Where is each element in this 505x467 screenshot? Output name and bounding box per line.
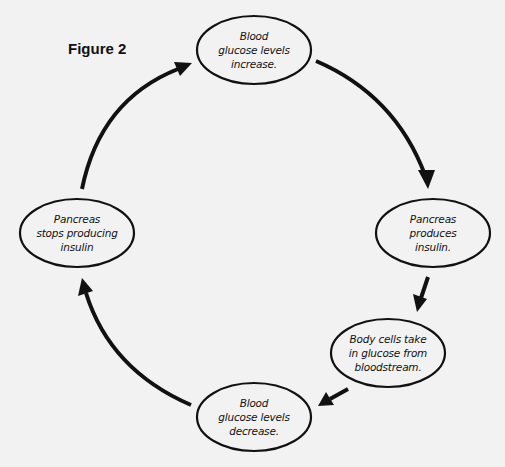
arrow-produces-to-body-cells xyxy=(413,277,428,312)
arrow-body-cells-to-decrease xyxy=(318,389,348,406)
node-label-line: decrease. xyxy=(229,424,279,438)
node-label-line: Blood xyxy=(240,396,269,410)
node-label-body-cells: Body cells take in glucose from bloodstr… xyxy=(331,318,445,388)
node-label-line: stops producing xyxy=(36,226,117,240)
node-label-pancreas-produces-insulin: Pancreas produces insulin. xyxy=(376,198,490,268)
node-label-pancreas-stops-insulin: Pancreas stops producing insulin xyxy=(20,198,134,268)
node-label-line: Pancreas xyxy=(410,212,456,226)
node-label-line: in glucose from xyxy=(349,346,427,360)
node-label-line: insulin xyxy=(61,240,94,254)
node-label-line: bloodstream. xyxy=(354,360,421,374)
node-label-line: insulin. xyxy=(415,240,451,254)
node-label-blood-glucose-decrease: Blood glucose levels decrease. xyxy=(197,382,311,452)
arrow-increase-to-produces xyxy=(316,61,435,189)
node-label-line: increase. xyxy=(231,57,277,71)
node-label-line: produces xyxy=(410,226,457,240)
figure-title: Figure 2 xyxy=(68,40,126,57)
node-label-line: glucose levels xyxy=(218,43,289,57)
node-label-blood-glucose-increase: Blood glucose levels increase. xyxy=(197,15,311,85)
node-label-line: Blood xyxy=(240,29,269,43)
arrow-stops-to-increase xyxy=(82,62,192,189)
diagram-canvas: Figure 2 Blood glucose levels increase. … xyxy=(0,0,505,467)
arrow-decrease-to-stops xyxy=(78,278,191,405)
node-label-line: Body cells take xyxy=(350,332,427,346)
node-label-line: glucose levels xyxy=(218,410,289,424)
node-label-line: Pancreas xyxy=(54,212,100,226)
